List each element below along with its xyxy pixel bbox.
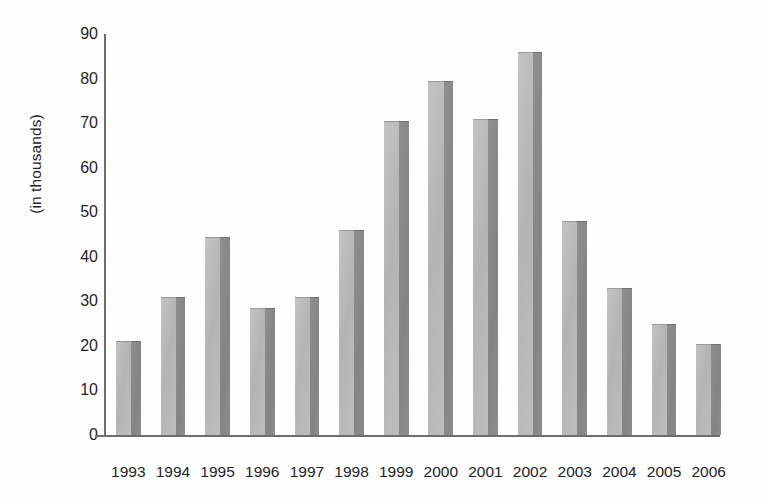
bar-front-face bbox=[518, 52, 533, 435]
y-tick-label: 70 bbox=[64, 115, 98, 131]
bar-front-face bbox=[116, 341, 131, 435]
y-tick-label: 20 bbox=[64, 338, 98, 354]
x-tick-label: 2006 bbox=[691, 463, 725, 481]
bar-2005[interactable] bbox=[652, 324, 677, 435]
bar-body bbox=[428, 81, 453, 435]
bar-2003[interactable] bbox=[562, 221, 587, 435]
bar-1996[interactable] bbox=[250, 308, 275, 435]
x-tick-label: 2003 bbox=[558, 463, 592, 481]
x-tick-label: 2002 bbox=[513, 463, 547, 481]
bar-front-face bbox=[161, 297, 176, 435]
bar-2006[interactable] bbox=[696, 344, 721, 435]
bar-side-face bbox=[310, 297, 320, 435]
bar-side-face bbox=[533, 52, 543, 435]
bar-body bbox=[116, 341, 141, 435]
bar-side-face bbox=[444, 81, 454, 435]
bar-side-face bbox=[220, 237, 230, 435]
bar-2002[interactable] bbox=[518, 52, 543, 435]
bar-front-face bbox=[205, 237, 220, 435]
bar-side-face bbox=[622, 288, 632, 435]
bar-side-face bbox=[176, 297, 186, 435]
bar-side-face bbox=[354, 230, 364, 435]
bar-body bbox=[518, 52, 543, 435]
x-tick-label: 2000 bbox=[424, 463, 458, 481]
y-tick-label: 30 bbox=[64, 293, 98, 309]
bar-side-face bbox=[488, 119, 498, 435]
y-tick-label: 0 bbox=[64, 427, 98, 443]
bar-front-face bbox=[607, 288, 622, 435]
bar-body bbox=[295, 297, 320, 435]
bar-front-face bbox=[250, 308, 265, 435]
x-tick-label: 2001 bbox=[468, 463, 502, 481]
y-tick-label: 10 bbox=[64, 382, 98, 398]
y-tick-label: 60 bbox=[64, 160, 98, 176]
bar-1995[interactable] bbox=[205, 237, 230, 435]
bar-body bbox=[205, 237, 230, 435]
bar-side-face bbox=[399, 121, 409, 435]
x-axis-tick-labels: 1993199419951996199719981999200020012002… bbox=[104, 463, 729, 487]
bar-body bbox=[339, 230, 364, 435]
x-tick-label: 1994 bbox=[156, 463, 190, 481]
bar-series bbox=[104, 34, 729, 435]
bar-2001[interactable] bbox=[473, 119, 498, 435]
bar-body bbox=[250, 308, 275, 435]
y-tick-label: 80 bbox=[64, 71, 98, 87]
y-tick-label: 50 bbox=[64, 204, 98, 220]
bar-front-face bbox=[652, 324, 667, 435]
bar-body bbox=[473, 119, 498, 435]
bar-body bbox=[562, 221, 587, 435]
bar-front-face bbox=[384, 121, 399, 435]
bar-side-face bbox=[265, 308, 275, 435]
bar-1998[interactable] bbox=[339, 230, 364, 435]
y-axis-tick-labels: 0102030405060708090 bbox=[58, 34, 98, 435]
x-axis-line bbox=[95, 435, 720, 437]
bar-front-face bbox=[339, 230, 354, 435]
x-tick-label: 1996 bbox=[245, 463, 279, 481]
bar-front-face bbox=[696, 344, 711, 435]
bar-body bbox=[384, 121, 409, 435]
y-axis-label: (in thousands) bbox=[27, 79, 45, 249]
x-tick-label: 1993 bbox=[111, 463, 145, 481]
bar-side-face bbox=[667, 324, 677, 435]
bar-chart: (in thousands) 0102030405060708090 19931… bbox=[0, 0, 765, 502]
bar-front-face bbox=[473, 119, 488, 435]
x-tick-label: 2004 bbox=[602, 463, 636, 481]
x-tick-label: 2005 bbox=[647, 463, 681, 481]
bar-side-face bbox=[711, 344, 721, 435]
x-tick-label: 1997 bbox=[290, 463, 324, 481]
bar-body bbox=[652, 324, 677, 435]
x-tick-label: 1995 bbox=[200, 463, 234, 481]
bar-front-face bbox=[295, 297, 310, 435]
bar-1997[interactable] bbox=[295, 297, 320, 435]
bar-body bbox=[607, 288, 632, 435]
bar-front-face bbox=[428, 81, 443, 435]
bar-1993[interactable] bbox=[116, 341, 141, 435]
bar-side-face bbox=[131, 341, 141, 435]
y-tick-label: 40 bbox=[64, 249, 98, 265]
plot-area bbox=[104, 34, 729, 435]
bar-1994[interactable] bbox=[161, 297, 186, 435]
bar-1999[interactable] bbox=[384, 121, 409, 435]
bar-side-face bbox=[577, 221, 587, 435]
bar-2004[interactable] bbox=[607, 288, 632, 435]
x-tick-label: 1998 bbox=[334, 463, 368, 481]
bar-body bbox=[696, 344, 721, 435]
bar-body bbox=[161, 297, 186, 435]
x-tick-label: 1999 bbox=[379, 463, 413, 481]
y-tick-label: 90 bbox=[64, 26, 98, 42]
bar-front-face bbox=[562, 221, 577, 435]
bar-2000[interactable] bbox=[428, 81, 453, 435]
